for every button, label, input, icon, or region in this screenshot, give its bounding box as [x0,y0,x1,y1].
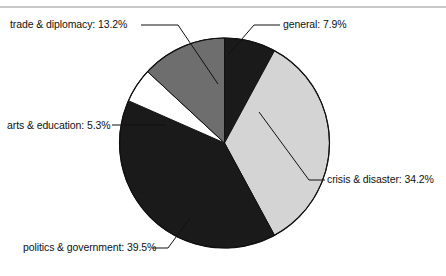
pie-chart-figure: trade & diplomacy: 13.2% general: 7.9% a… [0,0,446,276]
pie-chart-canvas [0,0,446,276]
slice-label-politics-government: politics & government: 39.5% [23,241,156,253]
slice-label-trade-diplomacy: trade & diplomacy: 13.2% [10,18,127,30]
pie-slice-group [119,38,329,248]
slice-label-arts-education: arts & education: 5.3% [7,119,110,131]
slice-label-general: general: 7.9% [283,18,347,30]
slice-label-crisis-disaster: crisis & disaster: 34.2% [327,173,434,185]
